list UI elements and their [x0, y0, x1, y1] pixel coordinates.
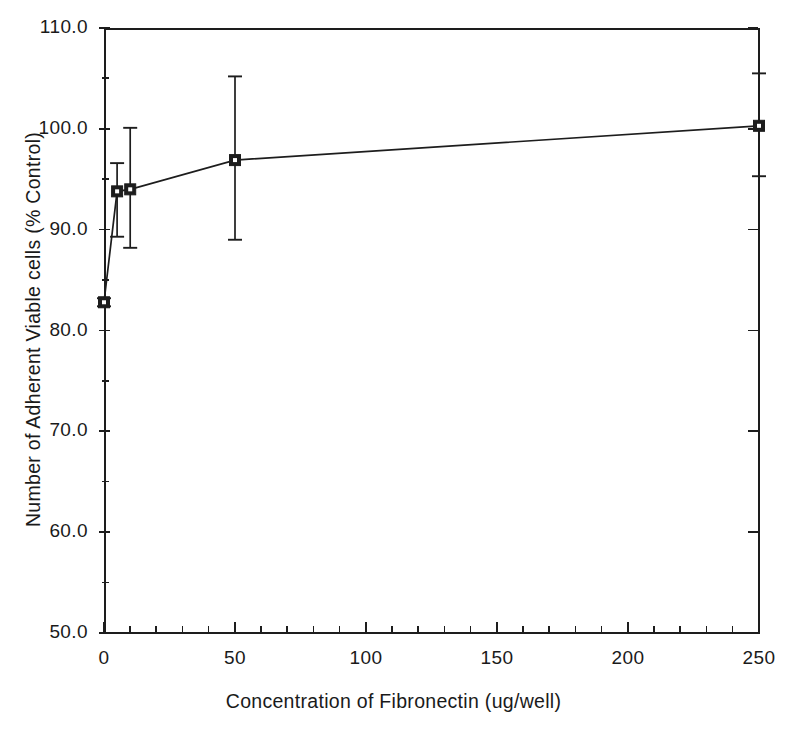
y-tick-major	[99, 229, 110, 231]
x-tick-minor	[339, 626, 341, 633]
x-tick-minor	[470, 626, 472, 633]
x-tick-minor	[417, 626, 419, 633]
x-tick-minor	[575, 626, 577, 633]
x-tick-major	[496, 622, 498, 633]
y-tick-label: 90.0	[8, 218, 88, 240]
axis-bottom-spine	[104, 632, 760, 634]
x-tick-minor	[260, 626, 262, 633]
y-tick-minor	[102, 380, 109, 382]
plot-area	[104, 28, 759, 633]
x-tick-minor	[522, 626, 524, 633]
axis-right-spine	[758, 28, 760, 634]
y-tick-major-right	[748, 27, 758, 29]
y-tick-major-right	[748, 632, 758, 634]
y-tick-major-right	[748, 330, 758, 332]
y-tick-major-right	[748, 229, 758, 231]
y-tick-major	[99, 27, 110, 29]
x-tick-major	[627, 622, 629, 633]
x-tick-major	[103, 622, 105, 633]
y-tick-major	[99, 330, 110, 332]
x-tick-minor	[653, 626, 655, 633]
x-tick-label: 100	[321, 647, 411, 669]
axis-top-spine	[104, 28, 760, 30]
x-tick-label: 50	[190, 647, 280, 669]
y-tick-minor	[102, 279, 109, 281]
y-axis-title: Number of Adherent Viable cells (% Contr…	[22, 100, 45, 560]
x-tick-major	[234, 622, 236, 633]
y-tick-label: 80.0	[8, 319, 88, 341]
x-tick-minor	[732, 626, 734, 633]
x-tick-minor	[208, 626, 210, 633]
x-tick-minor	[155, 626, 157, 633]
x-tick-minor	[679, 626, 681, 633]
x-tick-label: 200	[583, 647, 673, 669]
y-tick-label: 60.0	[8, 520, 88, 542]
y-tick-label: 110.0	[8, 16, 88, 38]
x-tick-minor	[182, 626, 184, 633]
x-tick-minor	[391, 626, 393, 633]
y-tick-major-right	[748, 531, 758, 533]
y-tick-major-right	[748, 430, 758, 432]
x-tick-minor	[706, 626, 708, 633]
y-tick-label: 70.0	[8, 419, 88, 441]
x-axis-title: Concentration of Fibronectin (ug/well)	[0, 690, 787, 713]
x-tick-major	[758, 622, 760, 633]
y-tick-label: 50.0	[8, 621, 88, 643]
x-tick-major	[365, 622, 367, 633]
y-tick-minor	[102, 77, 109, 79]
y-tick-major-right	[748, 128, 758, 130]
x-tick-label: 0	[59, 647, 149, 669]
y-tick-minor	[102, 582, 109, 584]
y-tick-minor	[102, 481, 109, 483]
y-tick-label: 100.0	[8, 117, 88, 139]
y-tick-major	[99, 531, 110, 533]
x-tick-label: 250	[714, 647, 787, 669]
x-tick-minor	[286, 626, 288, 633]
x-tick-minor	[601, 626, 603, 633]
x-tick-minor	[129, 626, 131, 633]
y-tick-major	[99, 430, 110, 432]
y-tick-minor	[102, 178, 109, 180]
x-tick-minor	[313, 626, 315, 633]
x-tick-minor	[548, 626, 550, 633]
chart-figure: 50.060.070.080.090.0100.0110.0 050100150…	[0, 0, 787, 738]
x-tick-label: 150	[452, 647, 542, 669]
y-tick-major	[99, 128, 110, 130]
x-tick-minor	[444, 626, 446, 633]
